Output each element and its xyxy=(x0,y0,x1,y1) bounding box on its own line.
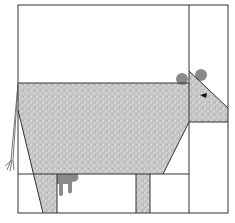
front-leg xyxy=(33,174,57,213)
udder xyxy=(57,174,78,196)
back-leg xyxy=(136,174,150,213)
cow-quilt-diagram xyxy=(0,0,235,223)
body xyxy=(18,83,189,174)
tail xyxy=(5,84,18,171)
